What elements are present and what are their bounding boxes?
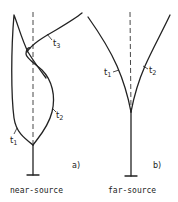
panel-a-t1-leader xyxy=(14,128,17,134)
panel-b-curve-t2 xyxy=(131,15,170,112)
panel-b: t1 t2 b) far-source xyxy=(88,12,170,195)
panel-b-t2-label: t2 xyxy=(149,65,156,77)
panel-b-curve-t1 xyxy=(88,17,131,112)
panel-a-t3-label: t3 xyxy=(53,38,60,50)
diagram-canvas: t3 t2 t1 a) near-source t1 t2 b) far-sou… xyxy=(0,0,178,202)
panel-b-axis xyxy=(130,12,131,112)
panel-a-caption: near-source xyxy=(10,186,63,195)
panel-a-curve-t1 xyxy=(12,15,46,145)
panel-a-tag: a) xyxy=(72,161,80,170)
panel-b-t1-label: t1 xyxy=(104,67,111,79)
panel-a-curve-t2 xyxy=(26,48,54,145)
panel-a-t2-label: t2 xyxy=(56,110,63,122)
panel-b-caption: far-source xyxy=(108,186,156,195)
panel-a-t1-label: t1 xyxy=(10,135,17,147)
panel-a-t3-leader xyxy=(47,34,52,40)
panel-a: t3 t2 t1 a) near-source xyxy=(10,12,82,195)
panel-b-tag: b) xyxy=(153,161,161,170)
panel-b-t1-leader xyxy=(113,70,119,72)
